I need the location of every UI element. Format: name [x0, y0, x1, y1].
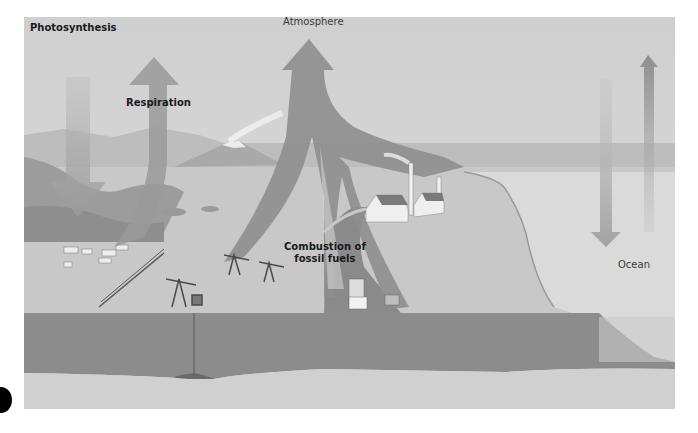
photosynthesis-label: Photosynthesis	[30, 22, 117, 34]
diagram-artwork	[24, 17, 675, 409]
combustion-label-line2: fossil fuels	[284, 253, 366, 265]
ocean-label: Ocean	[618, 259, 650, 271]
atmosphere-label: Atmosphere	[283, 17, 344, 28]
page-marker-dot	[0, 387, 12, 413]
carbon-cycle-diagram: Photosynthesis Respiration Atmosphere Co…	[24, 17, 675, 409]
respiration-label: Respiration	[126, 97, 191, 109]
car	[385, 295, 399, 305]
combustion-label: Combustion of fossil fuels	[284, 241, 366, 264]
combustion-label-line1: Combustion of	[284, 241, 366, 253]
